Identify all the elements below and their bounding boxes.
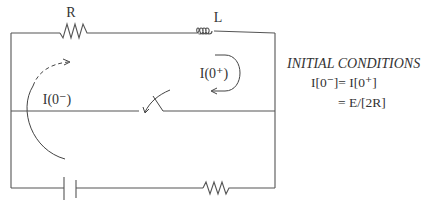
left-loop-current (27, 59, 70, 159)
switch-arrow (145, 90, 170, 112)
top-resistor-symbol (60, 24, 90, 38)
left-loop-current-label: I(0⁻) (43, 92, 72, 108)
bottom-branch (11, 177, 275, 200)
initial-conditions-title: INITIAL CONDITIONS (286, 56, 420, 71)
initial-conditions-line1: I[0⁻]= I[0⁺] (311, 75, 377, 90)
inductor-symbol (197, 28, 212, 34)
top-branch (11, 24, 275, 38)
switch-blade (153, 96, 163, 111)
top-resistor-label: R (66, 5, 76, 20)
right-loop-current-label: I(0⁺) (200, 66, 229, 82)
inductor-label: L (214, 10, 223, 25)
initial-conditions-line2: = E/[2R] (338, 95, 386, 110)
circuit-diagram: R L I(0⁺) I(0⁻) INITIAL CONDITIONS I[0⁻]… (0, 0, 433, 204)
bottom-resistor-symbol (203, 182, 232, 194)
